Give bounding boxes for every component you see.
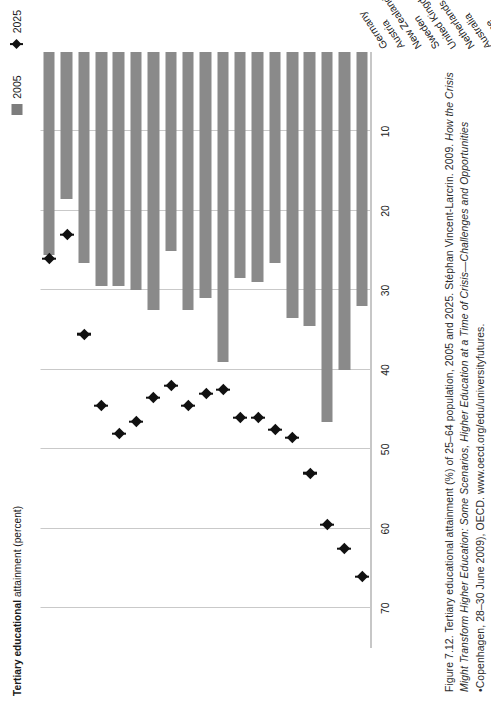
bar-row <box>112 52 123 648</box>
bar-belgium <box>199 52 210 298</box>
diamond-icon <box>95 400 106 411</box>
diamond-icon <box>113 428 124 439</box>
value-axis-title: Tertiary educational attainment (percent… <box>10 466 23 696</box>
diamond-icon <box>165 380 176 391</box>
diamond-icon <box>182 400 193 411</box>
bar-row <box>338 52 349 648</box>
bar-row <box>78 52 89 648</box>
bar-norway <box>182 52 193 310</box>
diamond-icon <box>147 392 158 403</box>
legend-label-2005: 2005 <box>10 75 22 98</box>
bar-row <box>60 52 71 648</box>
bar-row <box>303 52 314 648</box>
caption-part-2: •Copenhagen, 28–30 June 2009), OECD. www… <box>474 324 485 692</box>
diamond-icon <box>200 388 211 399</box>
bar-finland <box>303 52 314 326</box>
value-axis-title-rest: attainment (percent) <box>11 506 22 597</box>
bar-australia <box>147 52 158 310</box>
rotated-page: Tertiary educational attainment (percent… <box>0 0 491 704</box>
diamond-icon <box>217 384 228 395</box>
bar-denmark <box>286 52 297 318</box>
bar-luxembourg <box>269 52 280 263</box>
bar-row <box>269 52 280 648</box>
caption-part-1: Figure 7.12. Tertiary educational attain… <box>443 141 454 692</box>
bar-austria <box>60 52 71 199</box>
bar-row <box>147 52 158 648</box>
plot-area: 70605040302010 <box>40 52 371 648</box>
figure-chart: Tertiary educational attainment (percent… <box>6 0 426 704</box>
bar-row <box>165 52 176 648</box>
bar-korea <box>356 52 367 306</box>
diamond-icon <box>356 571 367 582</box>
diamond-icon <box>130 416 141 427</box>
bar-canada <box>321 52 332 422</box>
bar-sweden <box>95 52 106 286</box>
bar-spain <box>234 52 245 278</box>
diamond-icon <box>286 432 297 443</box>
bar-germany <box>43 52 54 255</box>
diamond-icon <box>234 412 245 423</box>
bar-row <box>286 52 297 648</box>
bar-row <box>356 52 367 648</box>
bar-united-states <box>217 52 228 362</box>
bar-united-kingdom <box>112 52 123 286</box>
legend-label-2025: 2025 <box>10 10 22 33</box>
legend: 2005 2025 <box>10 10 22 115</box>
gray-square-swatch-icon <box>11 104 22 115</box>
diamond-icon <box>321 519 332 530</box>
bar-row <box>130 52 141 648</box>
bar-row <box>43 52 54 648</box>
bar-row <box>199 52 210 648</box>
diamond-icon <box>61 229 72 240</box>
bar-japan <box>338 52 349 370</box>
category-label-area: GermanyAustriaNew ZealandSwedenUnited Ki… <box>370 52 440 648</box>
value-axis-title-bold: Tertiary educational <box>11 600 22 696</box>
diamond-icon <box>252 412 263 423</box>
bar-row <box>321 52 332 648</box>
black-diamond-swatch-icon <box>11 38 22 49</box>
bar-ireland <box>251 52 262 282</box>
diamond-icon <box>78 329 89 340</box>
legend-item-2025: 2025 <box>10 10 22 49</box>
legend-item-2005: 2005 <box>10 75 22 114</box>
bar-row <box>182 52 193 648</box>
diamond-icon <box>43 253 54 264</box>
bar-netherlands <box>130 52 141 290</box>
bar-row <box>251 52 262 648</box>
bar-new-zealand <box>78 52 89 263</box>
bar-france <box>165 52 176 251</box>
diamond-icon <box>269 424 280 435</box>
diamond-icon <box>338 543 349 554</box>
bar-row <box>217 52 228 648</box>
bar-row <box>234 52 245 648</box>
diamond-icon <box>304 468 315 479</box>
bar-row <box>95 52 106 648</box>
figure-caption: Figure 7.12. Tertiary educational attain… <box>441 72 488 692</box>
